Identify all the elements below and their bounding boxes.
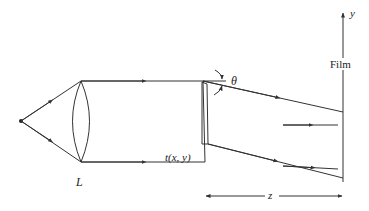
optics-diagram: L t(x, y) θ Film y z xyxy=(0,0,369,211)
angle-arc-top-icon xyxy=(215,70,222,79)
angle-arc-bottom-icon xyxy=(214,86,222,95)
deflected-rays xyxy=(203,81,343,178)
transparency-label: t(x, y) xyxy=(165,151,191,164)
distance-label: z xyxy=(267,189,273,201)
transparency-plane xyxy=(203,81,205,162)
angle-label: θ xyxy=(231,74,237,88)
lens-L xyxy=(73,81,90,162)
y-axis-label: y xyxy=(349,7,355,19)
lens-label: L xyxy=(75,175,83,189)
film-label: Film xyxy=(330,58,351,70)
collimated-beam xyxy=(81,81,205,162)
reference-arrows xyxy=(283,125,338,169)
